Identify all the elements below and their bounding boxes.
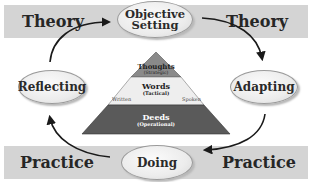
node-doing-label: Doing bbox=[137, 157, 177, 169]
node-objective-line2: Setting bbox=[131, 20, 178, 31]
tier-words-text: Words (Tactical) bbox=[126, 82, 186, 96]
tier-words-spoken: Spoken bbox=[182, 96, 201, 102]
node-reflecting: Reflecting bbox=[18, 70, 86, 104]
node-doing: Doing bbox=[121, 145, 193, 180]
tier-thoughts-text: Thoughts (Strategic) bbox=[126, 63, 186, 75]
node-reflecting-label: Reflecting bbox=[18, 81, 87, 93]
node-objective-setting: Objective Setting bbox=[117, 1, 193, 38]
tier-thoughts-subtitle: (Strategic) bbox=[126, 70, 186, 75]
tier-words-subtitle: (Tactical) bbox=[126, 90, 186, 96]
arrow-objective-to-adapting bbox=[202, 18, 262, 58]
tier-words-written: Written bbox=[112, 96, 131, 102]
tier-deeds-title: Deeds bbox=[121, 113, 191, 121]
arrow-reflecting-to-objective bbox=[50, 22, 108, 62]
tier-thoughts-title: Thoughts bbox=[126, 63, 186, 70]
tier-deeds-subtitle: (Operational) bbox=[121, 121, 191, 127]
node-adapting: Adapting bbox=[230, 70, 298, 104]
tier-words-title: Words bbox=[126, 82, 186, 90]
node-adapting-label: Adapting bbox=[233, 81, 294, 93]
tier-deeds-text: Deeds (Operational) bbox=[121, 113, 191, 127]
